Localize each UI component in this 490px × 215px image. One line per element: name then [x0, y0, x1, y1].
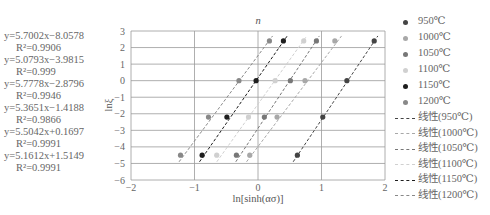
legend-label: 1100℃: [418, 63, 450, 74]
legend-item-marker: 1150℃: [392, 77, 490, 93]
legend-item-marker: 1100℃: [392, 61, 490, 77]
dashed-line-icon: [395, 180, 415, 181]
legend-label: 线性(1150℃): [418, 173, 477, 184]
data-point: [274, 114, 279, 119]
legend-label: 线性(950℃): [418, 111, 473, 122]
y-tick-label: −5: [114, 158, 125, 169]
y-axis-label: lnξ: [103, 98, 115, 111]
legend-label: 线性(1050℃): [418, 142, 478, 153]
fit-lines: [179, 36, 378, 162]
legend: 950℃1000℃1050℃1100℃1150℃1200℃线性(950℃)线性(…: [392, 13, 490, 202]
fit-line: [247, 36, 342, 162]
dot-icon: [403, 52, 408, 57]
data-point: [295, 153, 300, 158]
dot-icon: [403, 20, 408, 25]
data-point: [253, 78, 258, 83]
dashed-line-icon: [395, 133, 415, 134]
y-tick-label: −3: [114, 125, 125, 136]
data-point: [301, 38, 306, 43]
y-tick-label: −6: [114, 175, 125, 186]
data-point: [288, 78, 293, 83]
legend-item-fit: 线性(1200℃): [392, 187, 490, 203]
x-axis-label: ln[sinh(ασ)]: [233, 193, 284, 205]
data-point: [302, 78, 307, 83]
data-point: [206, 114, 211, 119]
y-tick-label: −1: [114, 92, 125, 103]
legend-label: 1000℃: [418, 31, 451, 42]
dashed-line-icon: [395, 195, 415, 196]
data-point: [262, 114, 267, 119]
y-tick-label: 2: [120, 42, 125, 53]
legend-item-marker: 1200℃: [392, 93, 490, 109]
legend-item-fit: 线性(950℃): [392, 109, 490, 125]
data-point: [246, 114, 251, 119]
data-point: [224, 114, 229, 119]
data-point: [236, 78, 241, 83]
legend-label: 1200℃: [418, 95, 451, 106]
data-point: [320, 114, 325, 119]
dashed-line-icon: [395, 149, 415, 150]
data-points: [178, 38, 377, 157]
legend-label: 1050℃: [418, 47, 451, 58]
data-point: [267, 38, 272, 43]
data-point: [247, 153, 252, 158]
dot-icon: [403, 36, 408, 41]
y-tick-label: −4: [114, 141, 125, 152]
dashed-line-icon: [395, 118, 415, 119]
fit-line: [293, 36, 378, 162]
y-tick-label: 0: [120, 75, 125, 86]
fit-line: [200, 36, 288, 162]
chart-title: n: [255, 15, 260, 26]
data-point: [344, 78, 349, 83]
legend-item-marker: 950℃: [392, 13, 490, 29]
legend-item-marker: 1050℃: [392, 45, 490, 61]
data-point: [281, 38, 286, 43]
fit-line: [236, 36, 320, 162]
y-tick-label: 1: [120, 59, 125, 70]
x-tick-label: 2: [383, 182, 388, 193]
y-tick-label: −2: [114, 108, 125, 119]
legend-item-fit: 线性(1000℃): [392, 125, 490, 141]
grid-lines: [131, 31, 385, 180]
fit-line: [179, 36, 273, 162]
dot-icon: [403, 100, 408, 105]
legend-item-fit: 线性(1050℃): [392, 140, 490, 156]
legend-label: 线性(1000℃): [418, 127, 478, 138]
data-point: [200, 153, 205, 158]
data-point: [273, 78, 278, 83]
data-point: [178, 153, 183, 158]
x-tick-label: −2: [126, 182, 137, 193]
dot-icon: [403, 68, 408, 73]
dashed-line-icon: [395, 164, 415, 165]
legend-label: 线性(1200℃): [418, 189, 478, 200]
x-tick-label: 0: [256, 182, 261, 193]
data-point: [314, 38, 319, 43]
legend-item-fit: 线性(1100℃): [392, 156, 490, 172]
y-tick-label: 3: [120, 26, 125, 37]
data-point: [234, 153, 239, 158]
data-point: [214, 153, 219, 158]
axes: 3210−1−2−3−4−5−6−2−1012: [114, 26, 387, 194]
x-tick-label: −1: [189, 182, 200, 193]
x-tick-label: 1: [319, 182, 324, 193]
legend-item-marker: 1000℃: [392, 29, 490, 45]
legend-label: 线性(1100℃): [418, 158, 477, 169]
dot-icon: [403, 84, 408, 89]
legend-label: 950℃: [418, 15, 446, 26]
fit-line: [217, 36, 307, 162]
data-point: [372, 38, 377, 43]
legend-item-fit: 线性(1150℃): [392, 171, 490, 187]
data-point: [332, 38, 337, 43]
legend-label: 1150℃: [418, 79, 450, 90]
